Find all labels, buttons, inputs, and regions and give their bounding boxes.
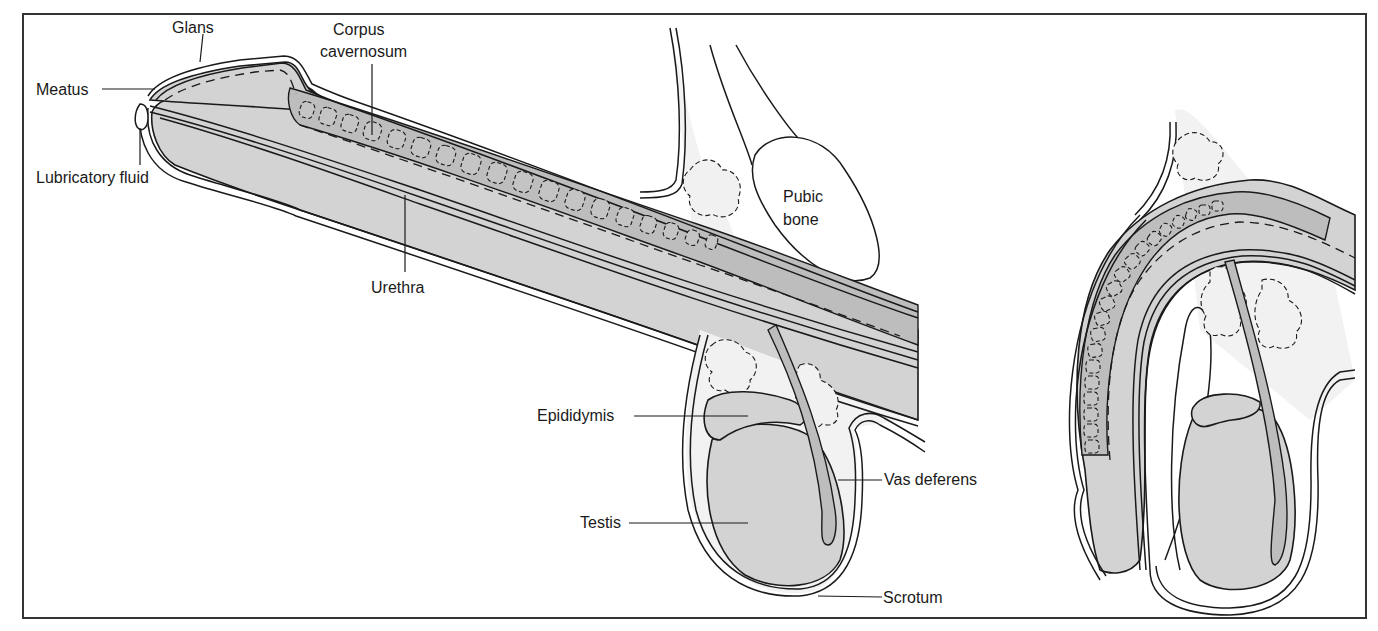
- label-epididymis: Epididymis: [537, 407, 614, 424]
- flaccid-abdomen-skin-1: [1135, 122, 1170, 215]
- label-pubic-line2: bone: [783, 211, 819, 228]
- label-corpus-line1: Corpus: [333, 21, 385, 38]
- fat-cluster-upper: [683, 160, 740, 217]
- erect-panel: [102, 28, 925, 597]
- label-testis: Testis: [580, 514, 621, 531]
- label-vas-deferens: Vas deferens: [884, 471, 977, 488]
- label-urethra: Urethra: [371, 279, 424, 296]
- label-glans: Glans: [172, 19, 214, 36]
- label-scrotum: Scrotum: [883, 589, 943, 606]
- flaccid-panel: [1069, 109, 1355, 615]
- lubricatory-fluid-drop: [135, 104, 148, 130]
- label-lubricatory-fluid: Lubricatory fluid: [36, 169, 149, 186]
- scrotum-leader: [818, 596, 882, 597]
- glans-leader: [200, 34, 203, 62]
- label-pubic-line1: Pubic: [783, 188, 823, 205]
- anatomy-figure: Glans Corpus cavernosum Meatus Lubricato…: [0, 0, 1378, 631]
- label-meatus: Meatus: [36, 81, 88, 98]
- label-corpus-line2: cavernosum: [320, 43, 407, 60]
- pubic-region-line-2: [736, 45, 800, 140]
- abdomen-skin-outer: [640, 28, 679, 192]
